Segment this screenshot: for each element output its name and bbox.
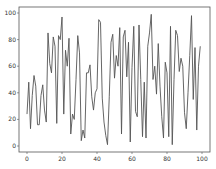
y-tick-label: 0 [12,142,16,149]
x-axis: 020406080100 [25,152,208,162]
line-chart: 020406080100 020406080100 [0,0,216,169]
y-tick-label: 20 [8,115,16,122]
y-tick-label: 100 [5,9,17,16]
y-axis: 020406080100 [5,9,19,149]
y-tick-label: 80 [8,36,16,43]
x-tick-label: 0 [25,155,29,162]
y-tick-label: 40 [8,89,16,96]
plot-area [19,7,210,152]
x-tick-label: 80 [163,155,171,162]
x-tick-label: 40 [93,155,101,162]
x-tick-label: 20 [58,155,66,162]
x-tick-label: 100 [196,155,208,162]
y-tick-label: 60 [8,62,16,69]
x-tick-label: 60 [128,155,136,162]
